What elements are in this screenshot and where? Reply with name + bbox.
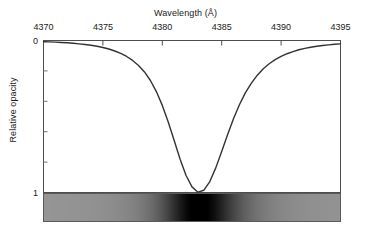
spectrum-strip [43,193,341,222]
spectral-line-figure: Wavelength (Å) Relative opacity 43704375… [0,0,371,236]
plot-frame [44,41,341,193]
spectrum-gradient-canvas [44,194,340,221]
